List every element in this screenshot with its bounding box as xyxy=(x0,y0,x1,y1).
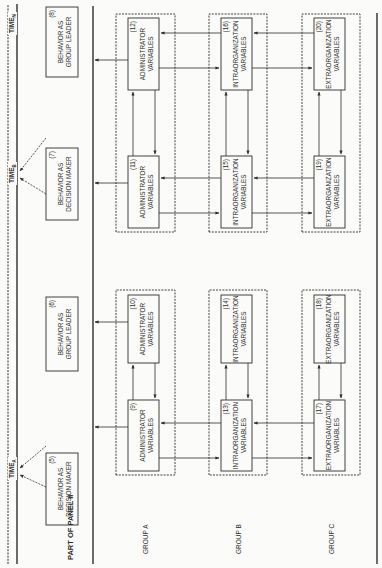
time-n-label: TIMEN xyxy=(8,12,17,35)
variable-box-12: (12) ADMINISTRATORVARIABLES xyxy=(128,18,159,90)
variable-box-11: (11) ADMINISTRATORVARIABLES xyxy=(128,156,159,228)
group-c-label: GROUP C xyxy=(328,524,335,554)
behavior-box-7-text: (7) BEHAVIOR AS DECISION MAKER xyxy=(46,148,78,220)
variable-box-13: (13) INTRAORGANIZATIONVARIABLES xyxy=(221,400,252,471)
time-a-label: TIMEA xyxy=(8,457,17,480)
group-a-label: GROUP A xyxy=(142,524,149,554)
behavior-box-6-text: (6) BEHAVIOR AS GROUP LEADER xyxy=(46,297,78,371)
variable-box-18: (18) EXTRAORGANIZATIONVARIABLES xyxy=(314,295,345,363)
time-b-label: TIMEB xyxy=(8,162,17,185)
group-b-label: GROUP B xyxy=(235,524,242,554)
variable-box-15: (15) INTRAORGANIZATIONVARIABLES xyxy=(221,156,252,228)
variable-box-19: (19) EXTRAORGANIZATIONVARIABLES xyxy=(314,156,345,228)
behavior-box-8-text: (8) BEHAVIOR AS GROUP LEADER xyxy=(46,7,78,77)
variable-box-14: (14) INTRAORGANIZATIONVARIABLES xyxy=(221,295,252,363)
variable-box-16: (16) INTRAORGANIZATIONVARIABLES xyxy=(221,18,252,90)
variable-box-17: (17) EXTRAORGANIZATIONVARIABLES xyxy=(314,400,345,471)
variable-box-20: (20) EXTRAORGANIZATIONVARIABLES xyxy=(314,18,345,90)
diagram-canvas: TIMEA TIMEB TIMEN PART OF PANEL II GROUP… xyxy=(0,0,382,568)
variable-box-9: (9) ADMINISTRATORVARIABLES xyxy=(128,400,159,471)
behavior-box-5-text: (5) BEHAVIOR AS DECISION MAKER xyxy=(46,453,78,525)
variable-box-10: (10) ADMINISTRATORVARIABLES xyxy=(128,295,159,363)
